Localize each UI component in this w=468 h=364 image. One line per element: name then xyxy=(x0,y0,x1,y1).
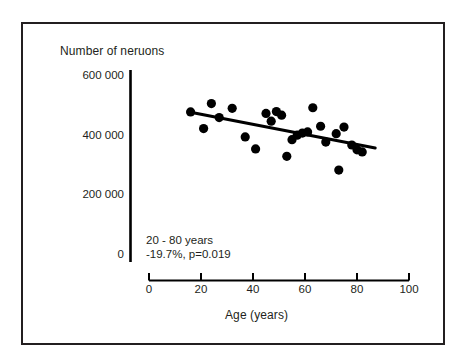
data-point xyxy=(261,109,270,118)
y-tick-label-600000: 600 000 xyxy=(58,69,124,81)
x-tick-label-40: 40 xyxy=(233,283,273,295)
data-point xyxy=(303,127,312,136)
data-point xyxy=(321,137,330,146)
data-point xyxy=(316,122,325,131)
x-tick-label-20: 20 xyxy=(181,283,221,295)
x-axis-title: Age (years) xyxy=(225,308,288,322)
data-point xyxy=(228,104,237,113)
data-point xyxy=(267,117,276,126)
data-point xyxy=(207,99,216,108)
data-point xyxy=(332,129,341,138)
y-tick-label-400000: 400 000 xyxy=(58,129,124,141)
data-point xyxy=(215,113,224,122)
x-tick-label-100: 100 xyxy=(389,283,429,295)
data-point xyxy=(308,103,317,112)
annotation-line-age-range: 20 - 80 years xyxy=(146,233,231,247)
data-point xyxy=(199,124,208,133)
data-point xyxy=(358,147,367,156)
x-tick-label-0: 0 xyxy=(129,283,169,295)
data-points-group xyxy=(186,99,367,175)
data-point xyxy=(277,111,286,120)
data-point xyxy=(251,144,260,153)
statistics-annotation: 20 - 80 years -19.7%, p=0.019 xyxy=(146,233,231,261)
data-point xyxy=(282,152,291,161)
y-axis-title: Number of neruons xyxy=(60,44,164,58)
figure-container: Number of neruons Age (years) 0200 00040… xyxy=(0,0,468,364)
y-tick-label-0: 0 xyxy=(58,248,124,260)
annotation-line-slope-pvalue: -19.7%, p=0.019 xyxy=(146,247,231,261)
x-tick-label-80: 80 xyxy=(337,283,377,295)
y-tick-label-200000: 200 000 xyxy=(58,188,124,200)
data-point xyxy=(241,132,250,141)
data-point xyxy=(186,107,195,116)
x-tick-label-60: 60 xyxy=(285,283,325,295)
data-point xyxy=(339,123,348,132)
data-point xyxy=(334,165,343,174)
